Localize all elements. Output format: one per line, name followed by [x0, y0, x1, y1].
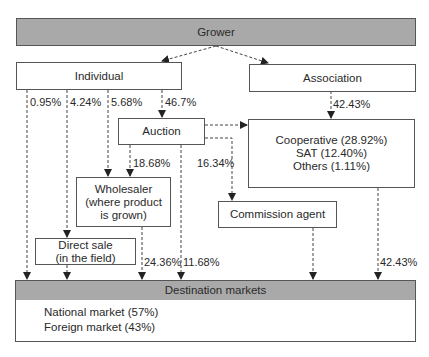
wholesaler-line-2: (where product: [85, 196, 162, 209]
association-label: Association: [303, 72, 362, 85]
national-market: National market (57%): [44, 306, 158, 318]
wholesaler-line-3: is grown): [100, 209, 147, 222]
auction-node: Auction: [118, 118, 205, 145]
destination-body: National market (57%) Foreign market (43…: [15, 300, 416, 342]
cooperative-line-2: SAT (12.40%): [296, 147, 367, 160]
direct-sale-line-2: (in the field): [55, 252, 115, 265]
individual-label: Individual: [75, 70, 124, 83]
edge-label-wholesaler-dest: 24.36%: [144, 256, 181, 268]
destination-header: Destination markets: [15, 280, 416, 301]
edge-label-assoc-coop: 42.43%: [333, 98, 370, 110]
cooperative-line-1: Cooperative (28.92%): [276, 134, 388, 147]
commission-agent-label: Commission agent: [230, 208, 325, 221]
individual-node: Individual: [16, 62, 182, 90]
edge-label-auction-dest: 11.68%: [183, 256, 220, 268]
foreign-market: Foreign market (43%): [44, 321, 155, 333]
direct-sale-line-1: Direct sale: [58, 239, 112, 252]
grower-label: Grower: [197, 26, 235, 39]
auction-label: Auction: [142, 125, 180, 138]
destination-label: Destination markets: [165, 284, 267, 297]
edge-label-auction-wholesaler: 18.68%: [133, 157, 170, 169]
association-node: Association: [249, 64, 416, 92]
wholesaler-line-1: Wholesaler: [95, 183, 153, 196]
commission-agent-node: Commission agent: [218, 201, 337, 228]
cooperative-line-3: Others (1.11%): [293, 160, 370, 173]
direct-sale-node: Direct sale (in the field): [35, 238, 136, 265]
edge-label-ind-direct: 4.24%: [70, 96, 101, 108]
edge-label-ind-dest: 0.95%: [30, 96, 61, 108]
wholesaler-node: Wholesaler (where product is grown): [76, 177, 171, 227]
grower-node: Grower: [16, 18, 416, 46]
edge-label-coop-dest: 42.43%: [380, 256, 417, 268]
cooperative-node: Cooperative (28.92%) SAT (12.40%) Others…: [248, 119, 415, 188]
edge-label-ind-wholesaler: 5.68%: [111, 96, 142, 108]
edge-label-ind-auction: 46.7%: [165, 96, 196, 108]
edge-label-auction-commission: 16.34%: [197, 157, 234, 169]
